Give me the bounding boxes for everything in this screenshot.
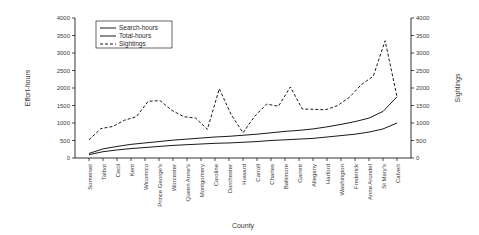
y-axis-right-title: Sightings bbox=[454, 73, 462, 102]
x-tick-label: Harford bbox=[325, 164, 331, 184]
x-tick-label: Charles bbox=[269, 164, 275, 185]
x-tick-label: Somerset bbox=[87, 164, 93, 190]
x-tick-label: Washington bbox=[339, 164, 345, 195]
y-tick-label-right: 1000 bbox=[416, 120, 430, 126]
y-tick-label-right: 2000 bbox=[416, 85, 430, 91]
chart-background bbox=[0, 0, 479, 235]
x-tick-label: Calvert bbox=[395, 164, 401, 183]
x-tick-label: Anne Arundel bbox=[367, 164, 373, 200]
x-tick-label: Garrett bbox=[297, 164, 303, 183]
legend-label-1: Total-hours bbox=[119, 32, 152, 39]
y-tick-label-right: 4000 bbox=[416, 15, 430, 21]
x-tick-label: Wicomico bbox=[143, 163, 149, 190]
x-tick-label: Allegany bbox=[311, 164, 317, 187]
chart-container: 05001000150020002500300035004000 0500100… bbox=[0, 0, 479, 235]
y-tick-label-right: 500 bbox=[416, 138, 427, 144]
x-tick-label: Carroll bbox=[255, 164, 261, 182]
y-tick-label-right: 3000 bbox=[416, 50, 430, 56]
x-tick-label: Howard bbox=[241, 164, 247, 185]
y-tick-label-left: 500 bbox=[60, 138, 71, 144]
x-tick-label: Worcester bbox=[171, 164, 177, 191]
x-axis-title: County bbox=[232, 222, 255, 230]
x-tick-label: Dorchester bbox=[227, 164, 233, 193]
y-tick-label-right: 1500 bbox=[416, 103, 430, 109]
x-tick-label: Cecil bbox=[115, 164, 121, 177]
x-tick-label: Baltimore bbox=[283, 163, 289, 189]
y-tick-label-left: 2500 bbox=[57, 68, 71, 74]
x-tick-label: Frederick bbox=[353, 163, 359, 189]
y-axis-left-title: Effort-hours bbox=[24, 69, 31, 106]
x-tick-label: Queen Anne's bbox=[185, 164, 191, 202]
line-chart: 05001000150020002500300035004000 0500100… bbox=[0, 0, 479, 235]
y-tick-label-right: 3500 bbox=[416, 33, 430, 39]
x-tick-label: Prince George's bbox=[157, 164, 163, 207]
x-tick-label: Talbot bbox=[101, 164, 107, 180]
y-tick-label-left: 1500 bbox=[57, 103, 71, 109]
y-tick-label-left: 4000 bbox=[57, 15, 71, 21]
y-tick-label-left: 3000 bbox=[57, 50, 71, 56]
x-tick-label: St Mary's bbox=[381, 164, 387, 189]
chart-legend: Search-hoursTotal-hoursSightings bbox=[96, 21, 172, 48]
y-tick-label-left: 2000 bbox=[57, 85, 71, 91]
x-tick-label: Montgomery bbox=[199, 164, 205, 197]
legend-label-0: Search-hours bbox=[119, 24, 159, 31]
legend-label-2: Sightings bbox=[119, 40, 146, 48]
y-tick-label-right: 2500 bbox=[416, 68, 430, 74]
x-tick-label: Caroline bbox=[213, 163, 219, 186]
x-tick-label: Kent bbox=[129, 164, 135, 177]
y-tick-label-left: 1000 bbox=[57, 120, 71, 126]
y-tick-label-left: 3500 bbox=[57, 33, 71, 39]
